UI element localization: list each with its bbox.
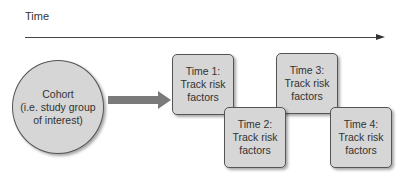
box-line: factors bbox=[284, 90, 329, 103]
box-line: factors bbox=[338, 144, 383, 157]
cohort-text: Cohort (i.e. study group of interest) bbox=[20, 88, 95, 127]
cohort-to-time1-arrow-shaft bbox=[108, 96, 160, 104]
time-axis-arrowhead-icon bbox=[376, 34, 385, 40]
box-line: Track risk bbox=[284, 77, 329, 90]
box-line: Time 3: bbox=[284, 64, 329, 77]
time-label: Time bbox=[25, 10, 49, 22]
cohort-line: Cohort bbox=[20, 88, 95, 101]
box-line: Time 2: bbox=[232, 118, 277, 131]
box-line: Track risk bbox=[338, 131, 383, 144]
time-3-box: Time 3: Track risk factors bbox=[276, 53, 338, 114]
cohort-line: of interest) bbox=[20, 114, 95, 127]
box-line: Track risk bbox=[232, 131, 277, 144]
time-axis-line bbox=[25, 37, 377, 38]
time-4-box: Time 4: Track risk factors bbox=[330, 107, 392, 168]
cohort-line: (i.e. study group bbox=[20, 101, 95, 114]
box-line: Time 4: bbox=[338, 118, 383, 131]
box-line: Time 1: bbox=[180, 65, 225, 78]
time-2-box: Time 2: Track risk factors bbox=[224, 107, 286, 168]
box-line: factors bbox=[180, 91, 225, 104]
box-line: Track risk bbox=[180, 78, 225, 91]
cohort-circle: Cohort (i.e. study group of interest) bbox=[12, 60, 104, 154]
cohort-to-time1-arrowhead-icon bbox=[158, 91, 171, 109]
time-1-box: Time 1: Track risk factors bbox=[172, 54, 234, 115]
box-line: factors bbox=[232, 144, 277, 157]
